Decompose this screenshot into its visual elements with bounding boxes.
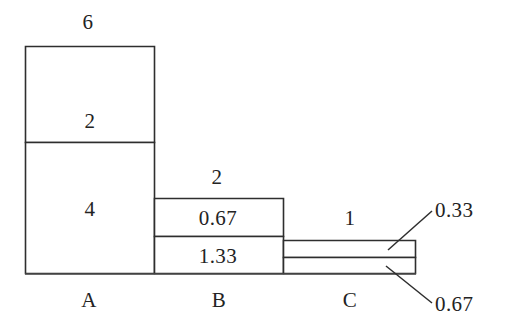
axis-label-a: A [81,288,97,313]
bar-c-bottom-segment [284,258,416,274]
axis-label-c: C [343,288,357,313]
bar-a-total-label: 6 [83,10,94,35]
bar-b-top-segment-label: 0.67 [199,206,237,231]
chart-canvas [0,0,513,327]
bar-b-total-label: 2 [212,165,223,190]
stacked-bar-chart-figure: 6 2 1 2 4 0.67 1.33 0.33 0.67 A B C [0,0,513,327]
bar-c-top-segment-callout-label: 0.33 [435,198,473,223]
bar-c-bottom-segment-callout-label: 0.67 [435,292,473,317]
bar-b-bottom-segment-label: 1.33 [199,244,237,269]
bar-a-top-segment-label: 2 [85,109,96,134]
bar-c-total-label: 1 [345,206,356,231]
bar-a-group [26,47,155,274]
bar-c-group [284,241,416,274]
bar-a-bottom-segment-label: 4 [85,197,96,222]
axis-label-b: B [212,288,226,313]
